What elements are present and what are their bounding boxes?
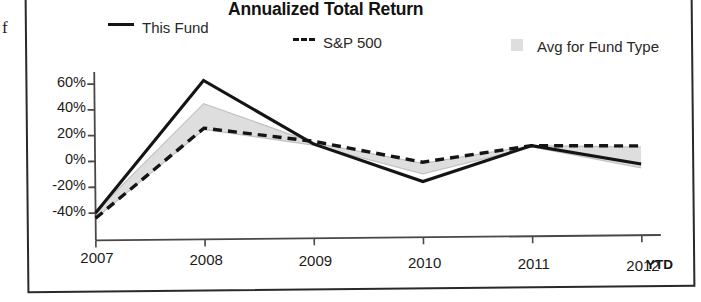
chart-plot-region: Annualized Total Return This Fund S&P 50… <box>0 0 701 302</box>
avg-fund-type-band <box>95 99 642 218</box>
chart-screenshot: f Annualized Total Return This Fund S&P … <box>0 0 701 302</box>
x-axis-line <box>96 235 661 240</box>
y-axis-line <box>94 72 96 240</box>
chart-canvas <box>0 0 701 302</box>
